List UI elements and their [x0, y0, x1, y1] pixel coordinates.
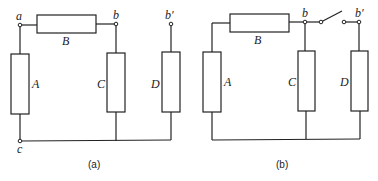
node-b-prime — [169, 22, 173, 26]
resistor-A — [11, 54, 29, 114]
label-node-c: c — [17, 142, 23, 156]
circuit-b: b b′ B A C D (b) — [203, 6, 368, 170]
circuit-a: a b b′ c B A C D (a) — [11, 8, 180, 170]
label-node-b-prime: b′ — [165, 8, 174, 22]
label-resistor-C: C — [288, 75, 297, 89]
wire-bottom-rail — [20, 140, 171, 141]
switch-pivot — [319, 20, 323, 24]
caption-b: (b) — [276, 159, 288, 170]
resistor-A — [203, 52, 221, 112]
label-resistor-B: B — [62, 34, 70, 48]
label-resistor-D: D — [339, 75, 349, 89]
node-b — [114, 22, 118, 26]
circuit-figure: a b b′ c B A C D (a) b b′ — [0, 0, 378, 181]
node-b-prime — [357, 20, 361, 24]
resistor-D — [351, 51, 368, 111]
label-resistor-C: C — [97, 77, 106, 91]
label-node-b: b — [302, 6, 308, 20]
resistor-C — [107, 53, 125, 112]
caption-a: (a) — [88, 159, 100, 170]
label-node-a: a — [16, 9, 22, 23]
resistor-B — [230, 14, 289, 32]
label-node-b: b — [113, 8, 119, 22]
label-resistor-B: B — [254, 33, 262, 47]
resistor-D — [162, 52, 180, 112]
label-resistor-D: D — [150, 77, 160, 91]
label-resistor-A: A — [31, 77, 40, 91]
node-b — [303, 20, 307, 24]
switch-contact — [342, 20, 346, 24]
label-node-b-prime: b′ — [355, 6, 364, 20]
resistor-C — [298, 51, 315, 111]
switch-blade — [321, 11, 342, 22]
label-resistor-A: A — [223, 75, 232, 89]
node-a — [18, 23, 22, 27]
wire-bottom-rail — [212, 139, 360, 140]
resistor-B — [37, 15, 96, 33]
